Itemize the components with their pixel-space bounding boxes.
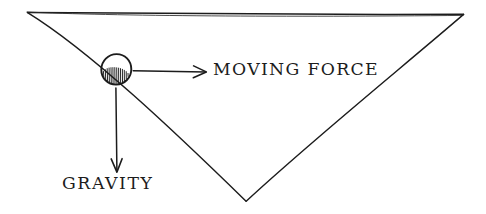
gravity-label: GRAVITY [62,175,154,193]
gravity-arrow [111,88,122,172]
physics-sketch-figure: MOVING FORCE GRAVITY [0,0,486,214]
moving-force-label: MOVING FORCE [213,61,379,79]
moving-force-arrow [133,66,206,78]
